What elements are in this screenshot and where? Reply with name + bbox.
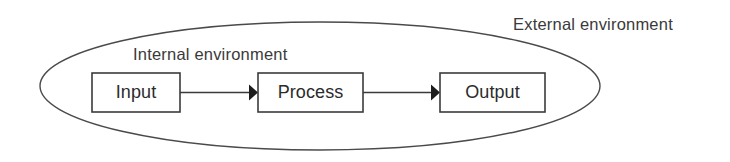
diagram-canvas: Input Process Output External environmen… [0, 0, 730, 162]
node-output-label: Output [465, 82, 520, 102]
arrowhead-icon-input-process [249, 85, 258, 101]
node-process-label: Process [278, 82, 344, 102]
node-process[interactable]: Process [258, 73, 363, 112]
connector-input-to-process [180, 85, 258, 101]
internal-environment-label: Internal environment [133, 45, 288, 63]
node-input[interactable]: Input [92, 73, 180, 112]
node-output[interactable]: Output [440, 73, 545, 112]
node-input-label: Input [116, 82, 157, 102]
arrowhead-icon-process-output [431, 85, 440, 101]
system-diagram: Input Process Output External environmen… [0, 0, 730, 162]
connector-process-to-output [363, 85, 440, 101]
external-environment-label: External environment [513, 15, 673, 33]
